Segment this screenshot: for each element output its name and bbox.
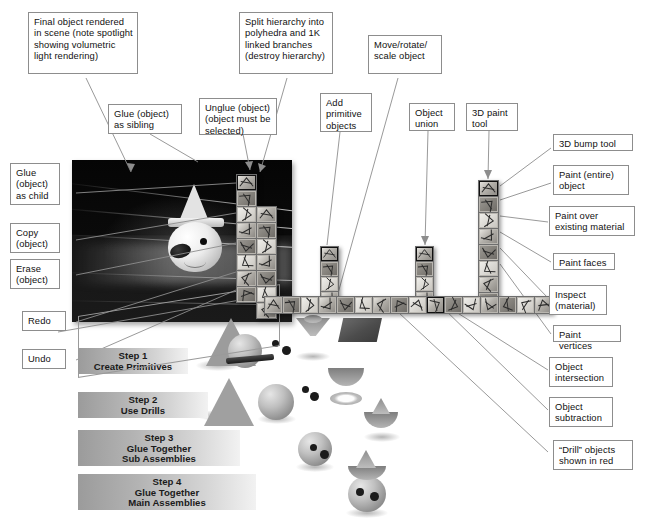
hierarchy-tools-button-7[interactable] — [237, 287, 256, 302]
callout-undo: Undo — [22, 349, 66, 369]
glue-tools-button-4[interactable] — [257, 271, 276, 286]
bowl-primitive — [328, 368, 364, 386]
hierarchy-tools-button-6[interactable] — [237, 271, 256, 286]
step-line: Step 3 — [78, 433, 240, 444]
primitive-tools-button-0[interactable] — [321, 247, 338, 261]
main-toolbar-icon-10 — [445, 297, 462, 313]
callout-glue-child: Glue (object) as child — [10, 163, 60, 205]
paint-tools-button-4[interactable] — [479, 245, 498, 260]
cone-primitive — [204, 378, 254, 426]
glue-tools-icon-3 — [257, 255, 276, 270]
boolean-tools-icon-2 — [416, 277, 433, 291]
hierarchy-tools-button-5[interactable] — [237, 255, 256, 270]
hierarchy-palette[interactable] — [236, 174, 257, 303]
shape-shadow — [364, 432, 400, 442]
glue-tools-button-1[interactable] — [257, 223, 276, 238]
main-toolbar-icon-8 — [409, 297, 426, 313]
hierarchy-tools-icon-1 — [237, 191, 256, 206]
main-toolbar-button-7[interactable] — [391, 297, 408, 313]
paint-tools-button-3[interactable] — [479, 229, 498, 244]
boolean-tools-icon-0 — [416, 247, 433, 261]
main-toolbar-icon-7 — [391, 297, 408, 313]
callout-paint-vertices: Paint vertices — [553, 325, 621, 342]
paint-tools-icon-5 — [479, 261, 498, 276]
main-toolbar-button-6[interactable] — [373, 297, 390, 313]
paint-palette[interactable] — [478, 180, 499, 309]
callout-inspect-material: Inspect (material) — [549, 285, 607, 315]
paint-tools-button-1[interactable] — [479, 197, 498, 212]
callout-redo: Redo — [22, 311, 66, 331]
glue-tools-button-0[interactable] — [257, 207, 276, 222]
main-toolbar-button-3[interactable] — [319, 297, 336, 313]
cone-lid — [372, 398, 390, 414]
main-toolbar-button-4[interactable] — [337, 297, 354, 313]
final-assembly-brim — [348, 466, 386, 480]
main-toolbar-button-13[interactable] — [499, 297, 516, 313]
main-toolbar-icon-3 — [319, 297, 336, 313]
snout-dot — [320, 450, 329, 459]
paint-tools-button-5[interactable] — [479, 261, 498, 276]
main-toolbar-button-14[interactable] — [517, 297, 534, 313]
boolean-tools-button-2[interactable] — [416, 277, 433, 291]
final-assembly-body — [348, 476, 386, 512]
main-toolbar-button-9[interactable] — [427, 297, 444, 313]
step-banner-4: Step 4Glue TogetherMain Assemblies — [78, 474, 256, 510]
paint-tools-icon-1 — [479, 197, 498, 212]
step-banner-2: Step 2Use Drills — [78, 392, 208, 418]
box-primitive — [338, 318, 382, 342]
hierarchy-tools-icon-4 — [237, 239, 256, 254]
callout-3d-bump-tool: 3D bump tool — [553, 134, 633, 151]
paint-tools-button-0[interactable] — [479, 181, 498, 196]
glue-tools-icon-2 — [257, 239, 276, 254]
main-toolbar-button-5[interactable] — [355, 297, 372, 313]
main-toolbar-button-10[interactable] — [445, 297, 462, 313]
callout-paint-over: Paint over existing material — [549, 206, 635, 236]
hierarchy-tools-button-2[interactable] — [237, 207, 256, 222]
final-assembly-hat — [356, 450, 376, 468]
callout-paint-faces: Paint faces — [553, 253, 615, 270]
drill-dot — [310, 392, 319, 401]
main-toolbar-button-12[interactable] — [481, 297, 498, 313]
main-toolbar-button-0[interactable] — [265, 297, 282, 313]
hierarchy-tools-icon-3 — [237, 223, 256, 238]
eye — [200, 238, 207, 245]
step-line: Main Assemblies — [78, 498, 256, 509]
paint-tools-icon-4 — [479, 245, 498, 260]
hierarchy-tools-button-1[interactable] — [237, 191, 256, 206]
main-toolbar-icon-0 — [265, 297, 282, 313]
hierarchy-tools-button-3[interactable] — [237, 223, 256, 238]
callout-glue-sibling: Glue (object) as sibling — [108, 104, 182, 134]
main-toolbar-icon-4 — [337, 297, 354, 313]
paint-tools-button-2[interactable] — [479, 213, 498, 228]
main-toolbar-button-11[interactable] — [463, 297, 480, 313]
primitive-tools-button-1[interactable] — [321, 262, 338, 276]
glue-tools-button-3[interactable] — [257, 255, 276, 270]
main-toolbar-button-2[interactable] — [301, 297, 318, 313]
callout-add-primitive: Add primitive objects — [320, 93, 372, 132]
main-toolbar[interactable] — [264, 296, 553, 314]
paint-tools-icon-2 — [479, 213, 498, 228]
main-toolbar-icon-5 — [355, 297, 372, 313]
mouth — [184, 256, 206, 268]
boolean-tools-button-1[interactable] — [416, 262, 433, 276]
main-toolbar-button-1[interactable] — [283, 297, 300, 313]
paint-tools-button-6[interactable] — [479, 277, 498, 292]
step-line: Step 4 — [78, 477, 256, 488]
main-toolbar-icon-1 — [283, 297, 300, 313]
glue-tools-button-2[interactable] — [257, 239, 276, 254]
main-toolbar-button-8[interactable] — [409, 297, 426, 313]
hierarchy-tools-button-4[interactable] — [237, 239, 256, 254]
paint-tools-icon-3 — [479, 229, 498, 244]
boolean-tools-button-0[interactable] — [416, 247, 433, 261]
drill-dot — [282, 346, 291, 355]
hierarchy-tools-icon-6 — [237, 271, 256, 286]
sphere-primitive — [258, 384, 294, 420]
hierarchy-tools-button-0[interactable] — [237, 175, 256, 190]
main-toolbar-icon-12 — [481, 297, 498, 313]
main-toolbar-icon-2 — [301, 297, 318, 313]
step-line: Step 2 — [78, 395, 208, 406]
callout-object-union: Object union — [409, 103, 455, 131]
shape-shadow — [296, 352, 330, 361]
primitive-tools-button-2[interactable] — [321, 277, 338, 291]
primitive-tools-icon-2 — [321, 277, 338, 291]
